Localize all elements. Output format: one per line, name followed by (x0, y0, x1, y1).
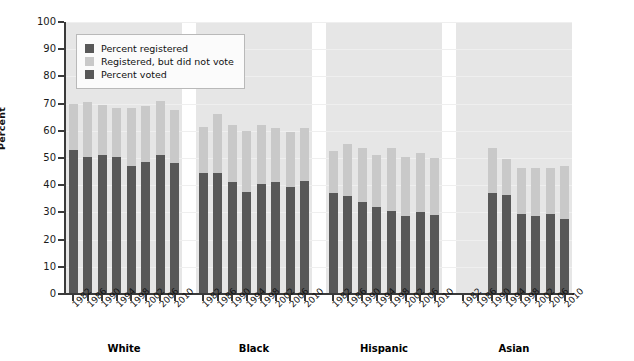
bar-segment-voted (112, 157, 121, 294)
bar-black-2006 (286, 132, 295, 294)
bar-black-1994 (242, 131, 251, 294)
legend-item-percent-registered: Percent registered (85, 43, 234, 54)
y-tick-label: 50 (26, 153, 56, 163)
bar-segment-voted (170, 163, 179, 294)
bar-hispanic-2010 (430, 158, 439, 294)
bar-segment-voted (416, 212, 425, 294)
bar-segment-voted (286, 187, 295, 294)
bar-asian-2006 (546, 168, 555, 294)
y-tick-mark (58, 239, 64, 241)
legend-item-registered-not-voted: Registered, but did not vote (85, 56, 234, 67)
bar-white-1982 (69, 104, 78, 294)
y-tick-label: 80 (26, 71, 56, 81)
bar-black-1986 (213, 114, 222, 294)
y-tick-mark (58, 130, 64, 132)
bar-segment-voted (242, 192, 251, 294)
bar-segment-voted (343, 196, 352, 294)
bar-segment-voted (228, 182, 237, 294)
y-tick-label: 20 (26, 235, 56, 245)
chart-legend: Percent registered Registered, but did n… (76, 34, 245, 89)
bar-black-2002 (271, 128, 280, 294)
bar-black-1998 (257, 125, 266, 294)
y-tick-mark (58, 266, 64, 268)
bar-segment-voted (387, 211, 396, 294)
bar-hispanic-1990 (358, 148, 367, 294)
bar-hispanic-2006 (416, 153, 425, 294)
gridline (66, 104, 572, 105)
bar-segment-voted (300, 181, 309, 294)
y-tick-label: 70 (26, 99, 56, 109)
y-tick-label: 30 (26, 207, 56, 217)
bar-segment-voted (430, 215, 439, 294)
bar-white-1986 (83, 102, 92, 294)
group-label-asian: Asian (456, 343, 572, 354)
y-tick-label: 40 (26, 180, 56, 190)
y-tick-label: 60 (26, 126, 56, 136)
chart-container: 0102030405060708090100 Percent 198219861… (0, 0, 634, 361)
group-label-hispanic: Hispanic (326, 343, 442, 354)
bar-segment-voted (517, 214, 526, 294)
bar-hispanic-1994 (372, 155, 381, 294)
bar-segment-voted (141, 162, 150, 294)
y-axis-line (64, 22, 66, 295)
legend-label-percent-voted: Percent voted (101, 69, 167, 80)
bar-segment-voted (271, 182, 280, 294)
bar-asian-1998 (517, 168, 526, 294)
y-tick-mark (58, 103, 64, 105)
bar-segment-voted (560, 219, 569, 294)
bar-segment-voted (401, 216, 410, 294)
bar-white-1994 (112, 108, 121, 294)
legend-swatch-percent-voted (85, 70, 94, 79)
bar-asian-2010 (560, 166, 569, 294)
bar-segment-voted (156, 155, 165, 294)
bar-asian-1994 (502, 159, 511, 294)
gridline (66, 22, 572, 23)
bar-segment-voted (69, 150, 78, 294)
y-tick-label: 100 (26, 17, 56, 27)
bar-white-2006 (156, 101, 165, 294)
bar-segment-voted (502, 195, 511, 294)
bar-segment-voted (488, 193, 497, 294)
y-axis-title: Percent (0, 107, 7, 150)
bar-segment-voted (199, 173, 208, 294)
y-tick-label: 0 (26, 289, 56, 299)
bar-black-1990 (228, 125, 237, 294)
y-tick-mark (58, 293, 64, 295)
bar-hispanic-1986 (343, 144, 352, 294)
bar-white-1998 (127, 108, 136, 294)
bar-segment-voted (329, 193, 338, 294)
legend-swatch-percent-registered (85, 44, 94, 53)
bar-segment-voted (372, 207, 381, 294)
y-tick-mark (58, 184, 64, 186)
bar-white-2010 (170, 110, 179, 294)
legend-swatch-registered-not-voted (85, 57, 94, 66)
bar-segment-voted (358, 202, 367, 294)
bar-segment-voted (531, 216, 540, 294)
y-tick-mark (58, 21, 64, 23)
bar-segment-voted (546, 214, 555, 294)
y-tick-mark (58, 48, 64, 50)
bar-segment-voted (98, 155, 107, 294)
bar-hispanic-1998 (387, 148, 396, 294)
bar-asian-2002 (531, 168, 540, 294)
bar-white-2002 (141, 106, 150, 294)
bar-segment-voted (127, 166, 136, 294)
bar-hispanic-1982 (329, 151, 338, 294)
y-tick-mark (58, 75, 64, 77)
bar-asian-1990 (488, 148, 497, 294)
y-tick-label: 90 (26, 44, 56, 54)
bar-black-1982 (199, 127, 208, 294)
legend-label-percent-registered: Percent registered (101, 43, 188, 54)
bar-segment-voted (257, 184, 266, 294)
legend-item-percent-voted: Percent voted (85, 69, 234, 80)
group-label-black: Black (196, 343, 312, 354)
y-tick-mark (58, 211, 64, 213)
bar-black-2010 (300, 128, 309, 294)
group-label-white: White (66, 343, 182, 354)
bar-segment-voted (83, 157, 92, 294)
bar-white-1990 (98, 105, 107, 294)
bar-segment-voted (213, 173, 222, 294)
y-tick-label: 10 (26, 262, 56, 272)
y-tick-mark (58, 157, 64, 159)
bar-hispanic-2002 (401, 157, 410, 294)
